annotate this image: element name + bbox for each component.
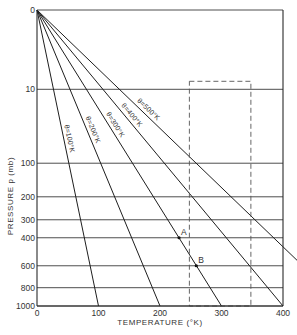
- y-tick-1000: 1000: [16, 301, 35, 311]
- theta-line-500: [37, 10, 297, 306]
- y-tick-0: 0: [30, 5, 35, 15]
- y-tick-800: 800: [21, 283, 35, 293]
- y-tick-400: 400: [21, 233, 35, 243]
- x-tick-200: 200: [153, 308, 167, 318]
- potential-temperature-chart: θ=100°Kθ=200°Kθ=300°Kθ=400°Kθ=500°K 0101…: [0, 0, 297, 335]
- theta-label-100: θ=100°K: [63, 124, 76, 153]
- x-tick-100: 100: [91, 308, 105, 318]
- y-tick-labels: 0101002003004006008001000: [16, 5, 35, 311]
- point-label-A: A: [181, 227, 187, 237]
- y-tick-600: 600: [21, 261, 35, 271]
- y-tick-10: 10: [26, 84, 36, 94]
- x-tick-300: 300: [214, 308, 228, 318]
- theta-line-200: [37, 10, 160, 306]
- x-tick-labels: 0100200300400: [35, 308, 291, 318]
- x-axis-title: TEMPERATURE (°K): [117, 318, 203, 327]
- theta-line-100: [37, 10, 99, 306]
- theta-line-300: [37, 10, 222, 306]
- y-tick-300: 300: [21, 215, 35, 225]
- y-tick-100: 100: [21, 158, 35, 168]
- theta-isolines: [37, 10, 297, 306]
- theta-line-400: [37, 10, 283, 306]
- y-tick-200: 200: [21, 192, 35, 202]
- theta-line-labels: θ=100°Kθ=200°Kθ=300°Kθ=400°Kθ=500°K: [63, 97, 161, 154]
- y-axis-title: PRESSURE p (mb): [6, 157, 15, 235]
- x-tick-0: 0: [35, 308, 40, 318]
- annotated-points: AB: [177, 227, 204, 268]
- highlight-box: [189, 81, 251, 306]
- x-tick-400: 400: [276, 308, 290, 318]
- point-label-B: B: [198, 255, 204, 265]
